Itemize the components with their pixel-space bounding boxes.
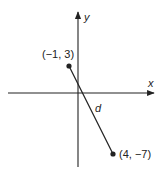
- point-a-label: (−1, 3): [42, 48, 74, 60]
- segment-label-d: d: [95, 102, 102, 114]
- point-b: [110, 151, 115, 156]
- distance-segment: [69, 66, 113, 154]
- point-b-label: (4, −7): [119, 148, 151, 160]
- y-axis-label: y: [83, 11, 91, 23]
- point-a: [66, 63, 71, 68]
- x-axis-label: x: [147, 77, 154, 89]
- coordinate-plane: x y d (−1, 3) (4, −7): [0, 0, 168, 174]
